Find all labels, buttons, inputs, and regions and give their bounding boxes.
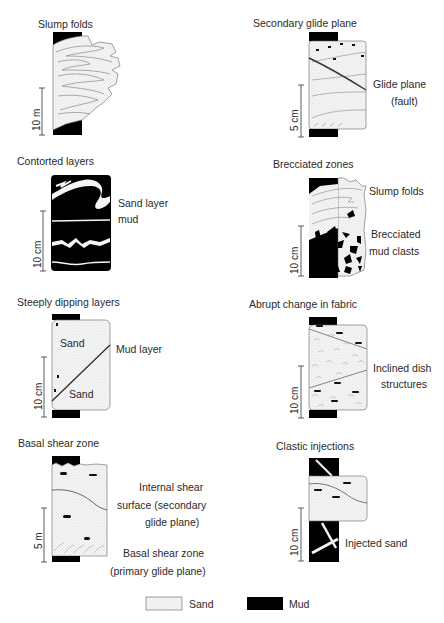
slump-folds-column <box>53 32 120 135</box>
label-inclined-dish: Inclined dish <box>373 362 431 374</box>
secondary-glide-plane-column <box>309 32 366 137</box>
steeply-dipping-layers-column <box>52 314 110 418</box>
brecciated-zones-column <box>309 178 366 278</box>
legend-mud-swatch <box>247 597 283 610</box>
label-mud: mud <box>118 213 138 225</box>
diagram-canvas <box>0 0 444 623</box>
scale-label-contorted-layers: 10 cm <box>32 241 43 268</box>
label-sand-layer: Sand layer <box>118 197 168 209</box>
panel-title-basal-shear-zone: Basal shear zone <box>18 437 99 449</box>
scale-label-brecciated-zones: 10 cm <box>289 247 300 274</box>
label-internal-shear: Internal shear <box>139 481 203 493</box>
panel-title-contorted-layers: Contorted layers <box>17 155 94 167</box>
label-fault: (fault) <box>391 95 418 107</box>
label-slump-folds: Slump folds <box>369 185 424 197</box>
label-sand-upper: Sand <box>60 337 85 349</box>
label-mud-clasts: mud clasts <box>369 245 419 257</box>
label-surface-secondary: surface (secondary <box>117 499 206 511</box>
label-glide-plane-close: glide plane) <box>145 516 199 528</box>
panel-title-steeply-dipping-layers: Steeply dipping layers <box>17 296 120 308</box>
panel-title-abrupt-change-in-fabric: Abrupt change in fabric <box>249 298 357 310</box>
panel-title-brecciated-zones: Brecciated zones <box>273 158 354 170</box>
scale-label-basal-shear-zone: 5 m <box>33 532 44 549</box>
panel-title-clastic-injections: Clastic injections <box>276 440 354 452</box>
abrupt-change-in-fabric-column <box>309 317 367 418</box>
label-primary-glide-plane: (primary glide plane) <box>110 565 206 577</box>
panel-title-slump-folds: Slump folds <box>38 18 93 30</box>
scale-label-slump-folds: 10 m <box>31 109 42 131</box>
contorted-layers-column <box>51 175 111 271</box>
scale-label-abrupt-change-in-fabric: 10 cm <box>289 387 300 414</box>
legend-sand-swatch <box>146 597 182 610</box>
legend-sand-label: Sand <box>189 598 214 610</box>
label-injected-sand: Injected sand <box>345 537 407 549</box>
scale-label-clastic-injections: 10 cm <box>289 529 300 556</box>
scale-label-secondary-glide-plane: 5 cm <box>289 109 300 131</box>
panel-title-secondary-glide-plane: Secondary glide plane <box>253 17 357 29</box>
label-glide-plane: Glide plane <box>373 78 426 90</box>
label-structures: structures <box>381 378 427 390</box>
scale-label-steeply-dipping-layers: 10 cm <box>33 383 44 410</box>
legend-mud-label: Mud <box>289 598 309 610</box>
label-brecciated: Brecciated <box>371 228 421 240</box>
label-sand-lower: Sand <box>69 388 94 400</box>
label-mud-layer: Mud layer <box>116 343 162 355</box>
basal-shear-zone-column <box>52 456 107 562</box>
label-basal-shear-zone: Basal shear zone <box>123 547 204 559</box>
